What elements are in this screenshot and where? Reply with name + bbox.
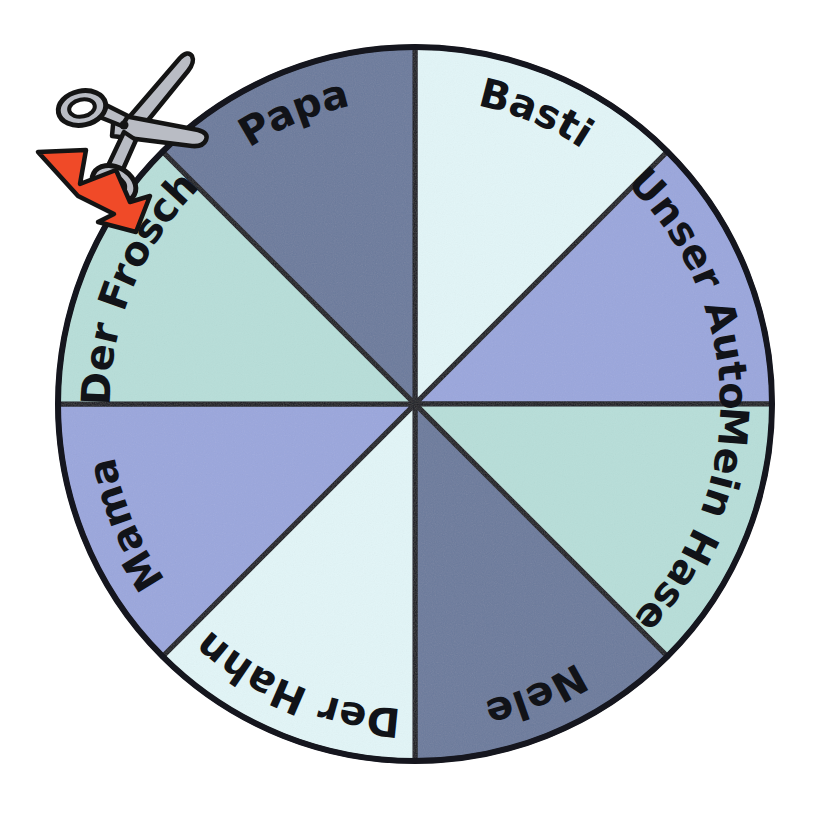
wheel-group [58, 47, 772, 761]
word-wheel-illustration: BastiUnser AutoMein HaseNeleDer HahnMama… [0, 0, 815, 831]
illustration-stage: BastiUnser AutoMein HaseNeleDer HahnMama… [0, 0, 815, 831]
